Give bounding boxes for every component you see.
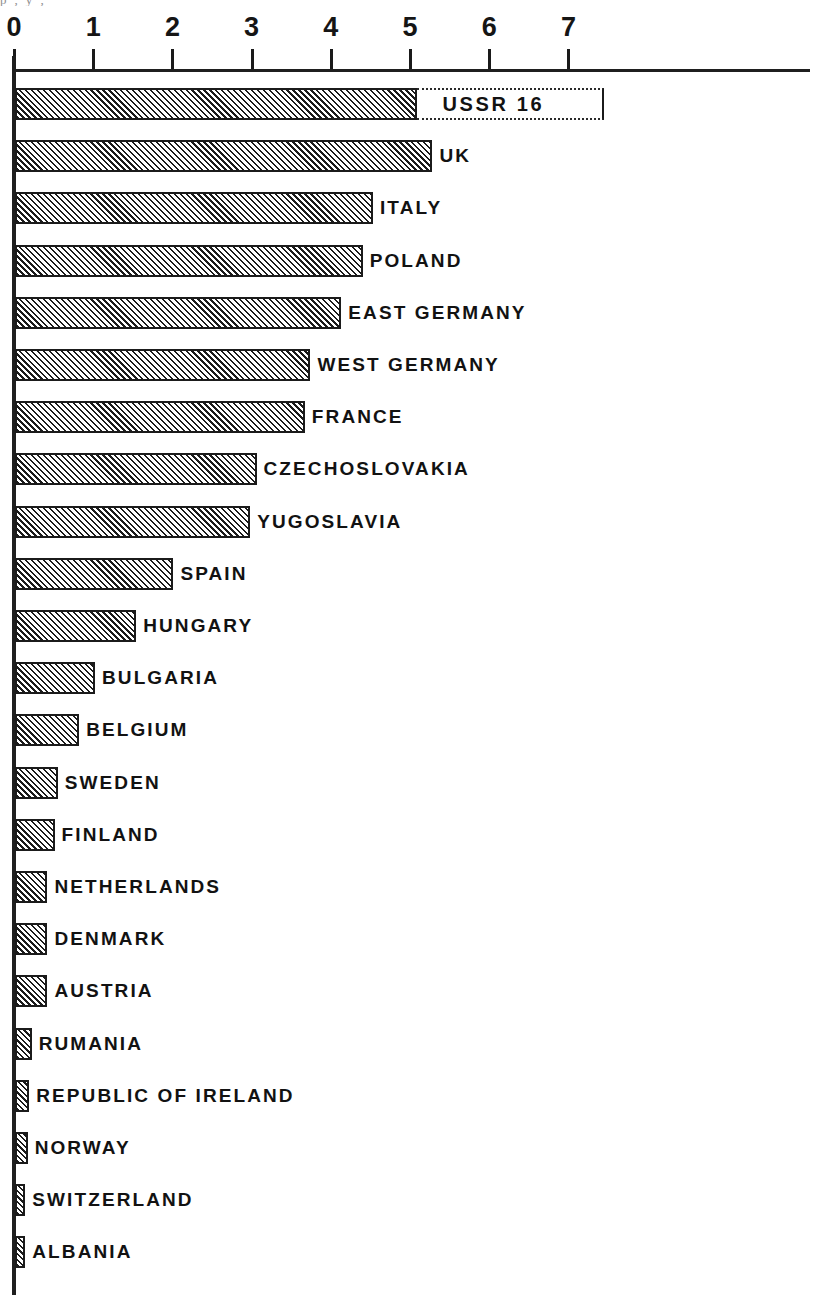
bar xyxy=(15,453,257,485)
bar xyxy=(15,1132,28,1164)
bar xyxy=(15,297,341,329)
bar-category-label: NETHERLANDS xyxy=(54,876,221,898)
bar-category-label: EAST GERMANY xyxy=(348,302,526,324)
bar-category-label: POLAND xyxy=(370,250,463,272)
bar xyxy=(15,349,310,381)
bar-row: NORWAY xyxy=(0,1132,822,1164)
bar xyxy=(15,1236,25,1268)
bar-row: ALBANIA xyxy=(0,1236,822,1268)
bar xyxy=(15,975,47,1007)
bar-row: POLAND xyxy=(0,245,822,277)
bar-row: CZECHOSLOVAKIA xyxy=(0,453,822,485)
bar-category-label: BULGARIA xyxy=(102,667,219,689)
bar-row: USSR 16 xyxy=(0,88,822,120)
bar-category-label: SPAIN xyxy=(180,563,247,585)
bar-category-label: BELGIUM xyxy=(86,719,188,741)
bar-row: FRANCE xyxy=(0,401,822,433)
bar xyxy=(15,1028,32,1060)
bar xyxy=(15,88,417,120)
bar-category-label: CZECHOSLOVAKIA xyxy=(264,458,470,480)
bar xyxy=(15,610,136,642)
bar-category-label: REPUBLIC OF IRELAND xyxy=(36,1085,294,1107)
bar xyxy=(15,506,250,538)
bar-row: SWEDEN xyxy=(0,767,822,799)
bar-row: NETHERLANDS xyxy=(0,871,822,903)
bar-category-label: SWITZERLAND xyxy=(32,1189,193,1211)
bar-row: BULGARIA xyxy=(0,662,822,694)
bar xyxy=(15,767,58,799)
bar-row: SPAIN xyxy=(0,558,822,590)
bar-value-label: USSR 16 xyxy=(443,93,545,116)
bar-category-label: HUNGARY xyxy=(143,615,253,637)
bar-category-label: ITALY xyxy=(380,197,442,219)
bar-category-label: SWEDEN xyxy=(65,772,161,794)
bar-row: REPUBLIC OF IRELAND xyxy=(0,1080,822,1112)
bar-row: DENMARK xyxy=(0,923,822,955)
bar-category-label: FINLAND xyxy=(62,824,160,846)
bar-category-label: NORWAY xyxy=(35,1137,131,1159)
bar xyxy=(15,714,79,746)
bar-category-label: DENMARK xyxy=(54,928,166,950)
bar-row: WEST GERMANY xyxy=(0,349,822,381)
bar xyxy=(15,871,47,903)
bar-chart: p , y , 01234567 USSR 16UKITALYPOLANDEAS… xyxy=(0,0,822,1301)
bar xyxy=(15,558,173,590)
bar-category-label: ALBANIA xyxy=(32,1241,132,1263)
bar-category-label: WEST GERMANY xyxy=(317,354,499,376)
bar xyxy=(15,245,363,277)
bar xyxy=(15,192,373,224)
bar-row: EAST GERMANY xyxy=(0,297,822,329)
bar xyxy=(15,1080,29,1112)
bar xyxy=(15,1184,25,1216)
bar xyxy=(15,923,47,955)
bar-row: BELGIUM xyxy=(0,714,822,746)
bar xyxy=(15,140,432,172)
plot-area: USSR 16UKITALYPOLANDEAST GERMANYWEST GER… xyxy=(0,0,822,1301)
bar-row: RUMANIA xyxy=(0,1028,822,1060)
bar xyxy=(15,819,55,851)
bar-category-label: YUGOSLAVIA xyxy=(257,511,402,533)
bar-category-label: RUMANIA xyxy=(39,1033,143,1055)
bar-row: UK xyxy=(0,140,822,172)
bar-row: FINLAND xyxy=(0,819,822,851)
bar-row: YUGOSLAVIA xyxy=(0,506,822,538)
bar-row: SWITZERLAND xyxy=(0,1184,822,1216)
bar-row: HUNGARY xyxy=(0,610,822,642)
bar xyxy=(15,401,305,433)
bar-category-label: UK xyxy=(439,145,471,167)
bar-row: AUSTRIA xyxy=(0,975,822,1007)
bar xyxy=(15,662,95,694)
bar-category-label: AUSTRIA xyxy=(54,980,153,1002)
bar-row: ITALY xyxy=(0,192,822,224)
bar-category-label: FRANCE xyxy=(312,406,404,428)
